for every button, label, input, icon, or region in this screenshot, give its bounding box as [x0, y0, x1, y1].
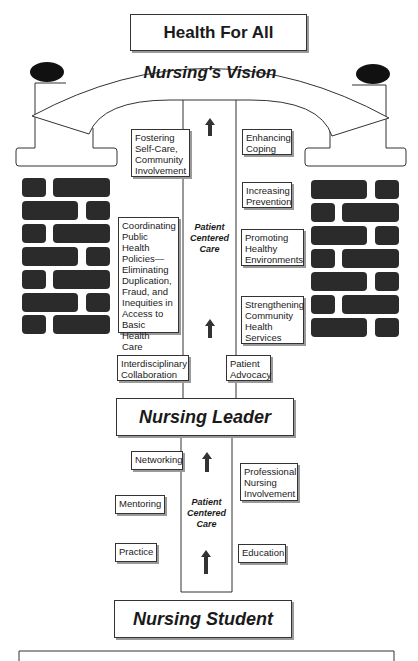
strengthening-community-health-box: Strengthening Community Health Services — [241, 296, 304, 344]
lower-patient-centered-care-label: Patient Centered Care — [181, 497, 232, 530]
left-pillar-cap-icon — [30, 62, 64, 82]
health-for-all-title: Health For All — [130, 14, 307, 51]
fostering-self-care-box: Fostering Self-Care, Community Involveme… — [131, 129, 190, 177]
nursing-leader-label: Nursing Leader — [139, 407, 271, 428]
upper-patient-centered-care-label: Patient Centered Care — [183, 222, 236, 255]
nursing-student-box: Nursing Student — [114, 600, 292, 638]
promoting-healthy-environments-box: Promoting Healthy Environments — [241, 229, 304, 266]
enhancing-coping-box: Enhancing Coping — [242, 129, 292, 155]
nursing-student-label: Nursing Student — [133, 609, 273, 630]
nursing-leader-box: Nursing Leader — [116, 398, 294, 436]
networking-box: Networking — [131, 451, 183, 470]
increasing-prevention-box: Increasing Prevention — [242, 182, 292, 208]
coordinating-public-health-box: Coordinating Public Health Policies— Eli… — [118, 217, 179, 333]
interdisciplinary-collaboration-box: Interdisciplinary Collaboration — [117, 355, 189, 381]
education-box: Education — [238, 544, 286, 563]
health-for-all-label: Health For All — [164, 23, 274, 43]
nursings-vision-label: Nursing's Vision — [130, 63, 290, 83]
mentoring-box: Mentoring — [115, 495, 165, 514]
right-pillar-cap-icon — [356, 64, 390, 84]
patient-advocacy-box: Patient Advocacy — [226, 355, 271, 381]
practice-box: Practice — [115, 543, 157, 562]
professional-nursing-involvement-box: Professional Nursing Involvement — [240, 463, 298, 501]
